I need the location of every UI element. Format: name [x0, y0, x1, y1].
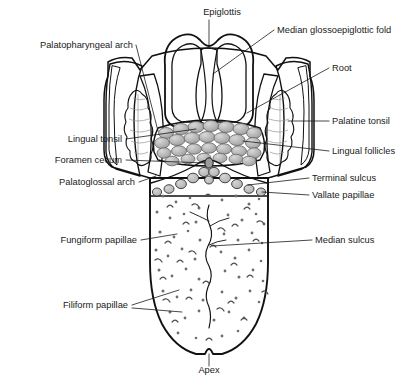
label-filiform-papillae: Filiform papillae — [63, 300, 128, 310]
label-foramen-cecum: Foramen cecum — [55, 155, 122, 165]
leader-median-sulcus — [212, 240, 312, 246]
label-median-sulcus: Median sulcus — [315, 235, 375, 245]
anatomy-figure: Epiglottis Median glossoepiglottic fold … — [0, 0, 418, 380]
label-palatine-tonsil: Palatine tonsil — [332, 116, 390, 126]
epiglottis — [165, 34, 254, 128]
leader-fungiform — [141, 234, 177, 240]
tongue-diagram-svg: Epiglottis Median glossoepiglottic fold … — [0, 0, 418, 380]
leader-filiform-a — [132, 290, 179, 305]
median-glossoepiglottic-fold — [201, 48, 217, 124]
label-vallate-papillae: Vallate papillae — [312, 190, 374, 200]
palatopharyngeal-arch-right — [276, 61, 312, 176]
label-palatoglossal-arch: Palatoglossal arch — [59, 177, 135, 187]
label-root: Root — [332, 63, 352, 73]
label-epiglottis: Epiglottis — [203, 7, 241, 17]
leader-vallate-papillae — [262, 192, 309, 195]
label-terminal-sulcus: Terminal sulcus — [312, 173, 376, 183]
foramen-cecum — [205, 158, 213, 168]
leader-terminal-sulcus — [248, 178, 309, 185]
label-fungiform-papillae: Fungiform papillae — [61, 235, 137, 245]
label-median-glossoepiglottic-fold: Median glossoepiglottic fold — [277, 25, 391, 35]
filiform-papillae — [155, 194, 268, 340]
vallate-papillae — [152, 167, 265, 196]
label-palatopharyngeal-arch: Palatopharyngeal arch — [40, 40, 133, 50]
label-lingual-tonsil: Lingual tonsil — [68, 134, 122, 144]
label-lingual-follicles: Lingual follicles — [332, 146, 395, 156]
leader-palatopharyngeal — [136, 45, 158, 131]
label-apex: Apex — [198, 365, 220, 375]
label-texts: Epiglottis Median glossoepiglottic fold … — [40, 7, 395, 375]
